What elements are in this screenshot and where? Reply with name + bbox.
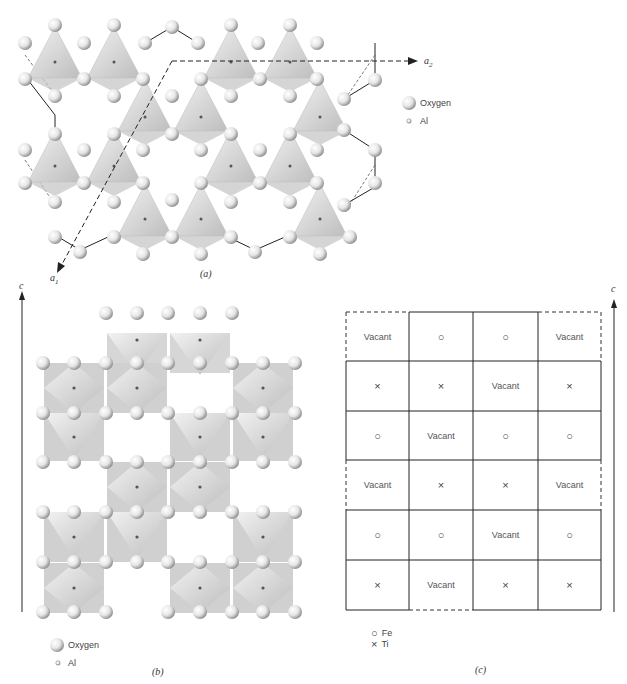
grid-cell-r1-c1: Vacant bbox=[346, 312, 409, 361]
octahedra-b bbox=[44, 333, 293, 613]
legend-b-oxygen-label: Oxygen bbox=[68, 640, 99, 650]
axis-a1-label: a1 bbox=[50, 272, 59, 286]
grid-cell-r6-c4: × bbox=[538, 560, 601, 610]
grid-cell-r4-c3: × bbox=[473, 460, 538, 510]
cation-site-grid: Vacant○○Vacant××Vacant×○Vacant○○Vacant××… bbox=[346, 312, 601, 610]
grid-cell-r6-c2: Vacant bbox=[409, 560, 473, 610]
grid-cell-r4-c1: Vacant bbox=[346, 460, 409, 510]
grid-cell-r2-c2: × bbox=[409, 361, 473, 411]
axis-c-right-arrowhead-icon bbox=[611, 299, 617, 308]
grid-cell-r5-c1: ○ bbox=[346, 510, 409, 560]
axis-c-label-right: c bbox=[611, 283, 615, 294]
ti-cross-icon: × bbox=[371, 638, 377, 650]
grid-cell-r3-c2: Vacant bbox=[409, 411, 473, 460]
panel-b-caption: (b) bbox=[152, 666, 164, 677]
grid-cell-r2-c3: Vacant bbox=[473, 361, 538, 411]
legend-oxygen-sphere-icon bbox=[402, 96, 416, 110]
panel-a-caption: (a) bbox=[200, 268, 212, 279]
axis-a2-arrowhead-icon bbox=[408, 57, 418, 65]
grid-cell-r3-c4: ○ bbox=[538, 411, 601, 460]
grid-cell-r5-c4: ○ bbox=[538, 510, 601, 560]
grid-cell-r3-c3: ○ bbox=[473, 411, 538, 460]
grid-cell-r5-c3: Vacant bbox=[473, 510, 538, 560]
legend-al-sphere-icon bbox=[407, 119, 411, 123]
panel-b-structure bbox=[19, 291, 302, 619]
octahedra-a bbox=[28, 27, 347, 250]
grid-cell-r6-c3: × bbox=[473, 560, 538, 610]
legend-a-oxygen-label: Oxygen bbox=[420, 98, 451, 108]
legend-b-al-sphere-icon bbox=[56, 661, 60, 665]
legend-ti-label: Ti bbox=[381, 639, 388, 649]
legend-b-al-label: Al bbox=[68, 658, 76, 668]
grid-cell-r1-c3: ○ bbox=[473, 312, 538, 361]
legend-fe-label: Fe bbox=[382, 628, 393, 638]
legend-a-al-label: Al bbox=[420, 116, 428, 126]
grid-cell-r1-c2: ○ bbox=[409, 312, 473, 361]
panel-a-structure bbox=[18, 18, 418, 273]
grid-cell-r1-c4: Vacant bbox=[538, 312, 601, 361]
grid-cell-r6-c1: × bbox=[346, 560, 409, 610]
panel-c-caption: (c) bbox=[475, 664, 486, 675]
axis-c-label-left: c bbox=[19, 280, 23, 291]
axis-a2-label: a2 bbox=[424, 55, 433, 69]
legend-b-oxygen-sphere-icon bbox=[50, 638, 64, 652]
grid-cell-r5-c2: ○ bbox=[409, 510, 473, 560]
grid-cell-r4-c2: × bbox=[409, 460, 473, 510]
grid-cell-r2-c1: × bbox=[346, 361, 409, 411]
legend-ti: × Ti bbox=[371, 638, 389, 650]
grid-cell-r3-c1: ○ bbox=[346, 411, 409, 460]
grid-cell-r2-c4: × bbox=[538, 361, 601, 411]
grid-cell-r4-c4: Vacant bbox=[538, 460, 601, 510]
axis-c-arrowhead-icon bbox=[19, 291, 25, 300]
